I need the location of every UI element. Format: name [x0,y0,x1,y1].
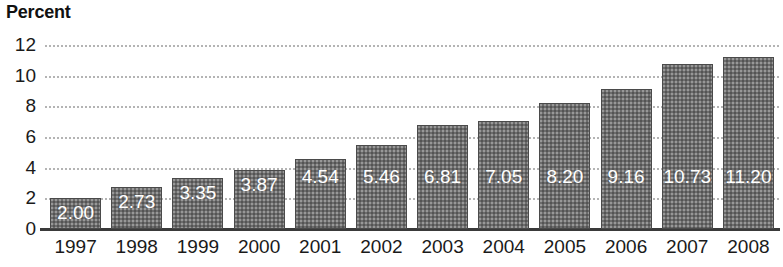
x-tick-label-1997: 1997 [45,236,106,258]
bar-value-label-1998: 2.73 [112,192,161,211]
bar-value-label-2005: 8.20 [540,167,589,186]
bar-value-label-2002: 5.46 [357,167,406,186]
y-tick-label-6: 6 [0,127,36,146]
y-tick-label-10: 10 [0,66,36,85]
bar-2006[interactable]: 9.16 [601,89,652,229]
bar-value-label-2004: 7.05 [479,167,528,186]
x-tick-label-2001: 2001 [290,236,351,258]
bar-value-label-2006: 9.16 [602,167,651,186]
bar-value-label-2001: 4.54 [296,167,345,186]
x-axis-tick-labels: 1997199819992000200120022003200420052006… [45,236,779,264]
bar-1998[interactable]: 2.73 [111,187,162,229]
bar-value-label-2008: 11.20 [724,167,773,186]
bar-chart: Percent 024681012 2.002.733.353.874.545.… [0,0,783,267]
bar-2005[interactable]: 8.20 [539,103,590,229]
x-tick-label-2006: 2006 [596,236,657,258]
y-tick-label-12: 12 [0,35,36,54]
y-tick-label-2: 2 [0,188,36,207]
bar-value-label-2007: 10.73 [663,167,712,186]
bar-value-label-1999: 3.35 [173,183,222,202]
x-tick-label-2005: 2005 [534,236,595,258]
bar-2007[interactable]: 10.73 [662,64,713,229]
bar-2001[interactable]: 4.54 [295,159,346,229]
y-tick-label-8: 8 [0,96,36,115]
x-tick-label-2007: 2007 [657,236,718,258]
y-tick-label-4: 4 [0,158,36,177]
bar-value-label-2000: 3.87 [235,175,284,194]
x-tick-label-2000: 2000 [229,236,290,258]
bar-2004[interactable]: 7.05 [478,121,529,229]
x-tick-label-2008: 2008 [718,236,779,258]
bar-2000[interactable]: 3.87 [234,170,285,229]
x-tick-label-1999: 1999 [167,236,228,258]
bar-2002[interactable]: 5.46 [356,145,407,229]
bar-2003[interactable]: 6.81 [417,125,468,229]
y-tick-label-0: 0 [0,219,36,238]
chart-axis-title: Percent [6,2,71,23]
bar-2008[interactable]: 11.20 [723,57,774,229]
bar-value-label-2003: 6.81 [418,167,467,186]
x-tick-label-2002: 2002 [351,236,412,258]
x-tick-label-1998: 1998 [106,236,167,258]
x-tick-label-2004: 2004 [473,236,534,258]
bar-value-label-1997: 2.00 [51,203,100,222]
bar-series: 2.002.733.353.874.545.466.817.058.209.16… [45,45,779,229]
bar-1997[interactable]: 2.00 [50,198,101,229]
x-tick-label-2003: 2003 [412,236,473,258]
bar-1999[interactable]: 3.35 [172,178,223,229]
